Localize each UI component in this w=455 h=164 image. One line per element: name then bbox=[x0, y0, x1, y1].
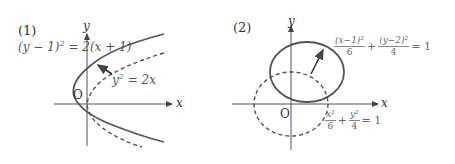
solid-ellipse-equation: (x−1)²6+(y−2)²4= 1 bbox=[334, 36, 433, 57]
solid-parabola-equation: (y − 1)2 = 2(x + 1) bbox=[18, 40, 131, 53]
panel-label: (2) bbox=[233, 21, 251, 34]
dashed-parabola-equation: y2 = 2x bbox=[112, 73, 156, 86]
origin-label: O bbox=[73, 89, 83, 101]
panel-parabola: (1) y x O (y − 1)2 = 2(x + 1) y2 = 2x bbox=[0, 0, 228, 164]
y-axis-label: y bbox=[288, 15, 295, 27]
translation-arrow bbox=[98, 65, 112, 74]
origin-label: O bbox=[280, 108, 290, 120]
panel-label: (1) bbox=[18, 24, 36, 37]
ellipse-graph bbox=[228, 0, 455, 164]
y-axis-label: y bbox=[83, 20, 90, 32]
panel-ellipse: (2) y x O (x−1)²6+(y−2)²4= 1 x²6+y²4= 1 bbox=[228, 0, 455, 164]
solid-ellipse-curve bbox=[270, 42, 344, 102]
translation-arrow bbox=[311, 50, 323, 74]
dashed-parabola-curve bbox=[87, 53, 164, 147]
dashed-ellipse-equation: x²6+y²4= 1 bbox=[325, 110, 383, 131]
x-axis-label: x bbox=[381, 97, 388, 109]
x-axis-label: x bbox=[176, 97, 183, 109]
